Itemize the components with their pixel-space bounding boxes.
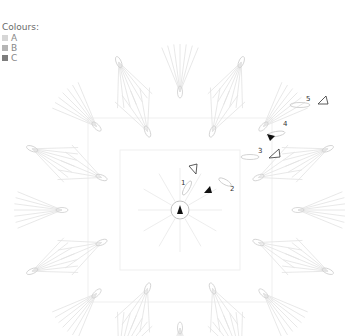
stitch-rays (14, 44, 345, 336)
start-arrow-icon (204, 186, 212, 193)
round-label-1: 1 (181, 179, 185, 187)
end-arrow-icon (189, 164, 197, 174)
round-label-4: 4 (283, 120, 288, 128)
round-label-5: 5 (306, 95, 310, 103)
round-label-3: 3 (258, 147, 262, 155)
start-arrow-icon (267, 134, 275, 141)
round-label-2: 2 (230, 185, 234, 193)
end-markers (189, 96, 328, 174)
crochet-chart: 1 2 3 4 5 (0, 0, 345, 336)
end-arrow-icon (269, 149, 280, 158)
round-joins (181, 103, 310, 197)
round-labels: 1 2 3 4 5 (181, 95, 310, 193)
start-arrow-icon (177, 205, 183, 214)
end-arrow-icon (318, 96, 328, 104)
